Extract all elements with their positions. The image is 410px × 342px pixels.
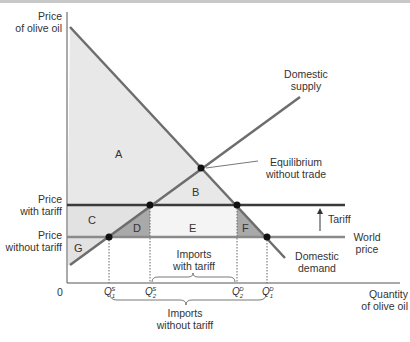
equilibrium-label: Equilibriumwithout trade xyxy=(256,156,336,180)
area-b-label: B xyxy=(192,186,199,198)
q2s-label: Q2S xyxy=(145,286,156,299)
tariff-label: Tariff xyxy=(328,213,351,225)
tariff-arrow-head xyxy=(317,208,323,214)
origin-label: 0 xyxy=(57,286,63,298)
equilibrium-pointer xyxy=(206,161,258,168)
area-d-label: D xyxy=(133,222,141,234)
domestic-supply-label: Domesticsupply xyxy=(276,68,336,92)
x-axis-label: Quantityof olive oil xyxy=(340,288,408,312)
q1d-dot xyxy=(264,234,271,241)
domestic-demand-label: Domesticdemand xyxy=(287,250,347,274)
q1s-dot xyxy=(106,234,113,241)
q2s-dot xyxy=(147,202,154,209)
area-f-label: F xyxy=(242,222,249,234)
area-e-label: E xyxy=(189,222,196,234)
imports-with-tariff-brace xyxy=(152,273,235,282)
equilibrium-dot xyxy=(198,165,205,172)
imports-without-tariff-label: Importswithout tariff xyxy=(145,307,225,331)
region-a xyxy=(68,27,201,205)
q2d-dot xyxy=(234,202,241,209)
y-axis-label: Priceof olive oil xyxy=(0,10,62,34)
q1d-label: Q1D xyxy=(262,286,273,299)
area-a-label: A xyxy=(115,148,122,160)
area-g-label: G xyxy=(74,242,83,254)
world-price-label: Worldprice xyxy=(347,231,387,255)
area-c-label: C xyxy=(88,214,96,226)
price-with-tariff-label: Pricewith tariff xyxy=(0,193,62,217)
q1s-label: Q1S xyxy=(104,286,115,299)
q2d-label: Q2D xyxy=(232,286,243,299)
imports-with-tariff-label: Importswith tariff xyxy=(160,248,228,272)
price-without-tariff-label: Pricewithout tariff xyxy=(0,229,62,253)
